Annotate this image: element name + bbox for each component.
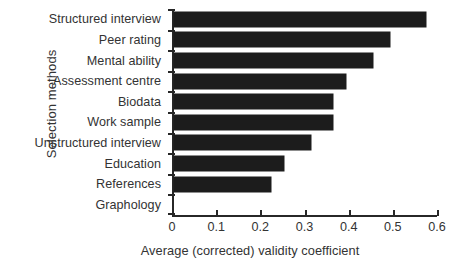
bar [174,115,333,130]
bar [174,32,390,47]
category-label: Peer rating [99,30,161,50]
y-axis-tick [168,153,175,155]
bar [174,12,426,27]
category-label: Biodata [118,92,161,112]
category-label: References [96,174,161,194]
x-axis-line [172,215,437,217]
x-axis-tick-label: 0.2 [240,220,280,234]
x-axis-tick [260,210,262,216]
x-axis-tick-label: 0.1 [196,220,236,234]
y-axis-tick [168,194,175,196]
category-label: Assessment centre [53,71,161,91]
category-label-column: Structured interviewPeer ratingMental ab… [0,9,166,215]
category-label: Work sample [87,112,161,132]
y-axis-tick [168,91,175,93]
bar-chart-figure: Selection methods Structured interviewPe… [0,0,457,280]
bar [174,94,333,109]
y-axis-tick [168,112,175,114]
x-axis-tick-label: 0.3 [285,220,325,234]
x-axis-tick-label: 0.6 [417,220,457,234]
bar [174,177,271,192]
bar [174,74,346,89]
x-axis-tick [393,210,395,216]
x-axis-tick [216,210,218,216]
bar [174,53,373,68]
x-axis-tick-label: 0.5 [373,220,413,234]
x-axis-tick [172,210,174,216]
x-axis-tick-label: 0 [152,220,192,234]
category-label: Mental ability [87,51,161,71]
y-axis-tick [168,9,175,11]
x-axis-tick [305,210,307,216]
x-axis-tick-label: 0.4 [329,220,369,234]
x-axis-tick [437,210,439,216]
category-label: Unstructured interview [35,133,161,153]
x-axis-title: Average (corrected) validity coefficient [60,243,440,258]
category-label: Graphology [95,195,161,215]
y-axis-tick [168,50,175,52]
category-label: Education [105,154,161,174]
x-axis-tick-labels: 00.10.20.30.40.50.6 [172,220,437,238]
x-axis-tick [349,210,351,216]
bar [174,135,311,150]
plot-area [172,9,437,215]
category-label: Structured interview [49,9,161,29]
bar [174,156,284,171]
